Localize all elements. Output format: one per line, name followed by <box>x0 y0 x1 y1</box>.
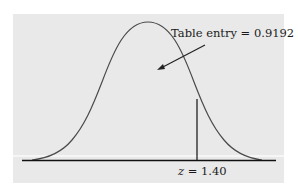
normal-density-curve <box>32 22 262 160</box>
normal-curve-figure: Table entry = 0.9192 z = 1.40 <box>0 0 298 191</box>
annotation-arrow-line <box>161 45 205 68</box>
table-entry-label: Table entry = 0.9192 <box>171 26 294 40</box>
z-value-text: = 1.40 <box>184 164 227 178</box>
z-value-label: z = 1.40 <box>178 164 227 178</box>
annotation-arrowhead-icon <box>157 64 165 70</box>
